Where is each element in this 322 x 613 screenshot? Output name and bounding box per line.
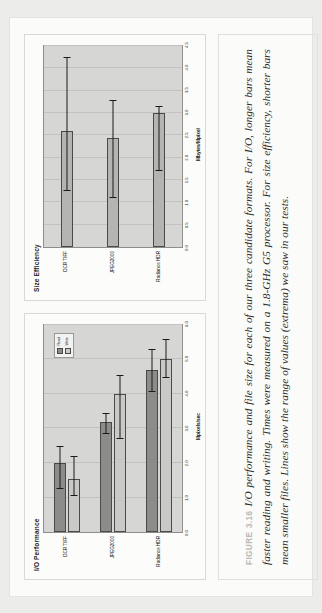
error-bar — [60, 445, 61, 488]
figure-caption-box: FIGURE 3.16I/O performance and file size… — [218, 34, 318, 580]
error-bar — [166, 338, 167, 378]
axis-tick: 5.0 — [184, 355, 189, 361]
category-label: JPEG2000 — [90, 248, 137, 294]
bar-row — [100, 325, 112, 532]
legend-item-read: Read — [57, 337, 63, 354]
error-bar — [113, 99, 114, 197]
category-labels-io: DCR TIFFJPEG2000Radiance HDR — [43, 533, 183, 573]
chart-title-io: I/O Performance — [33, 320, 40, 571]
axis-tick: 3.0 — [184, 109, 189, 115]
legend-item-write: Write — [65, 337, 71, 354]
bar-group — [136, 46, 182, 247]
axis-tick: 2.5 — [184, 132, 189, 138]
error-bar — [74, 456, 75, 496]
axis-tick: 4.0 — [184, 390, 189, 396]
axis-tick: 6.0 — [184, 321, 189, 327]
axis-tick: 2.0 — [184, 154, 189, 160]
rotated-page-wrapper: I/O Performance DCR TIFFJPEG2000Radiance… — [0, 0, 322, 613]
x-axis-title-io: Mpixels/sec — [196, 320, 201, 533]
chart-io-performance: I/O Performance DCR TIFFJPEG2000Radiance… — [24, 313, 206, 580]
bar-row — [153, 46, 165, 247]
error-bar — [106, 413, 107, 434]
axis-tick: 3.0 — [184, 425, 189, 431]
plot-frame-size — [43, 45, 183, 248]
bar-row — [160, 325, 172, 532]
category-labels-size: DCR TIFFJPEG2000Radiance HDR — [43, 248, 183, 294]
error-bar — [159, 106, 160, 171]
legend-io: Read Write — [54, 333, 74, 358]
category-label: Radiance HDR — [136, 248, 183, 294]
category-label: DCR TIFF — [43, 533, 90, 573]
figure-caption-text: I/O performance and file size for each o… — [242, 49, 289, 565]
x-axis-size: 0.00.51.01.52.02.53.03.54.04.5 — [183, 45, 195, 248]
legend-swatch-read — [57, 347, 63, 353]
legend-label-read: Read — [58, 337, 62, 346]
x-axis-title-size: Mbytes/Mpixel — [196, 41, 201, 248]
error-bar — [120, 375, 121, 439]
page-content: I/O Performance DCR TIFFJPEG2000Radiance… — [10, 18, 312, 596]
bar-group — [136, 325, 182, 532]
axis-tick: 0.0 — [184, 530, 189, 536]
axis-tick: 3.5 — [184, 87, 189, 93]
bar-write — [160, 359, 172, 532]
plot-frame-io: Read Write — [43, 324, 183, 533]
error-bar — [152, 349, 153, 392]
bar-row — [107, 46, 119, 247]
axis-tick: 0.5 — [184, 222, 189, 228]
figure-caption: FIGURE 3.16I/O performance and file size… — [240, 49, 293, 565]
bar-group — [44, 46, 90, 247]
bar-row — [61, 46, 73, 247]
category-label: DCR TIFF — [43, 248, 90, 294]
bar-read — [100, 421, 112, 531]
bar-read — [146, 369, 158, 531]
legend-label-write: Write — [66, 337, 70, 345]
axis-tick: 1.5 — [184, 177, 189, 183]
bar-group — [90, 46, 136, 247]
axis-tick: 1.0 — [184, 199, 189, 205]
error-bar — [67, 57, 68, 191]
chart-size-efficiency: Size Efficiency DCR TIFFJPEG2000Radiance… — [24, 34, 206, 301]
figure-number: FIGURE 3.16 — [245, 510, 254, 564]
bar-group — [90, 325, 136, 532]
page-content-rotated: I/O Performance DCR TIFFJPEG2000Radiance… — [10, 18, 312, 596]
axis-tick: 0.0 — [184, 245, 189, 251]
axis-tick: 4.5 — [184, 42, 189, 48]
category-label: Radiance HDR — [136, 533, 183, 573]
x-axis-io: 0.01.02.03.04.05.06.0 — [183, 324, 195, 533]
bar-row — [114, 325, 126, 532]
category-label: JPEG2000 — [90, 533, 137, 573]
axis-tick: 2.0 — [184, 460, 189, 466]
scanned-page-root: I/O Performance DCR TIFFJPEG2000Radiance… — [0, 0, 322, 613]
legend-swatch-write — [65, 347, 71, 353]
axis-tick: 4.0 — [184, 64, 189, 70]
plot-area-io: DCR TIFFJPEG2000Radiance HDR Read — [43, 320, 183, 573]
charts-row: I/O Performance DCR TIFFJPEG2000Radiance… — [24, 34, 206, 580]
axis-tick: 1.0 — [184, 495, 189, 501]
bar-row — [146, 325, 158, 532]
plot-area-size: DCR TIFFJPEG2000Radiance HDR — [43, 41, 183, 294]
chart-title-size: Size Efficiency — [33, 41, 40, 292]
